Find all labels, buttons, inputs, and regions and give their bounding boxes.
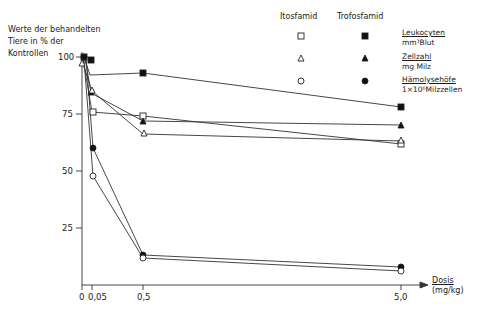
line-zellzahl-itosfamid [83, 64, 401, 141]
markers-leukocyten-trofosfamid [81, 54, 404, 110]
legend-filled-triangle-icon [362, 55, 368, 61]
line-haemolysehoefe-trofosfamid [86, 57, 401, 267]
line-zellzahl-trofosfamid [85, 57, 401, 125]
markers-zellzahl-itosfamid [79, 60, 404, 143]
legend-open-square-icon [298, 33, 304, 39]
line-leukocyten-itosfamid [83, 59, 401, 144]
x-axis-arrow-icon [420, 282, 428, 288]
chart-plot [0, 0, 478, 314]
markers-haemolysehoefe-itosfamid [90, 173, 404, 274]
markers-leukocyten-itosfamid [90, 109, 404, 147]
legend-open-circle-icon [298, 78, 304, 84]
line-haemolysehoefe-itosfamid [84, 59, 401, 271]
line-leukocyten-trofosfamid [84, 57, 401, 107]
legend-filled-square-icon [362, 33, 368, 39]
legend-filled-circle-icon [362, 78, 368, 84]
legend-open-triangle-icon [298, 55, 304, 61]
